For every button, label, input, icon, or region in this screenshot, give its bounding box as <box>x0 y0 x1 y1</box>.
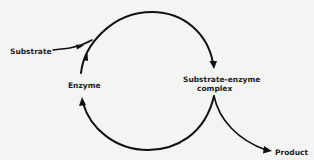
bottom-arc-arrow <box>83 96 214 150</box>
label-product: Product <box>275 148 309 157</box>
arrowhead-to-complex <box>210 61 218 69</box>
arrowhead-to-product <box>263 146 272 154</box>
arrowhead-substrate <box>76 45 84 50</box>
label-substrate: Substrate <box>10 47 52 56</box>
label-complex-line2: complex <box>197 84 232 93</box>
label-enzyme: Enzyme <box>68 81 101 90</box>
top-arc-arrow <box>81 12 213 73</box>
label-complex-line1: Substrate-enzyme <box>183 75 260 84</box>
substrate-input-arrow <box>53 40 92 50</box>
arrowhead-to-enzyme <box>79 97 86 106</box>
product-release-arrow <box>214 96 266 150</box>
enzyme-cycle-diagram: Substrate Enzyme Substrate-enzyme comple… <box>0 0 314 160</box>
